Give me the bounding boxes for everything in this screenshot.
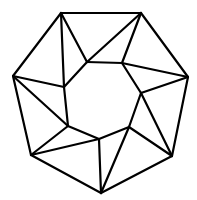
edge-e-f [68,126,99,139]
edge-B-C [141,13,188,77]
edge-g-a [64,62,87,87]
edge-a-b [87,62,122,63]
heptagon-figure [0,0,197,200]
edge-F-G [13,76,31,155]
edge-G-A [13,13,61,76]
edge-C-c [141,77,188,93]
edge-f-g [64,87,68,126]
edge-B-a [87,13,141,62]
edge-D-E [101,156,172,193]
geometric-diagram [0,0,197,200]
edge-G-f [13,76,68,126]
edge-c-d [129,93,141,127]
edge-C-D [172,77,188,156]
edge-A-g [61,13,64,87]
edge-E-F [31,155,101,193]
edge-A-a [61,13,87,62]
edge-E-e [99,139,101,193]
